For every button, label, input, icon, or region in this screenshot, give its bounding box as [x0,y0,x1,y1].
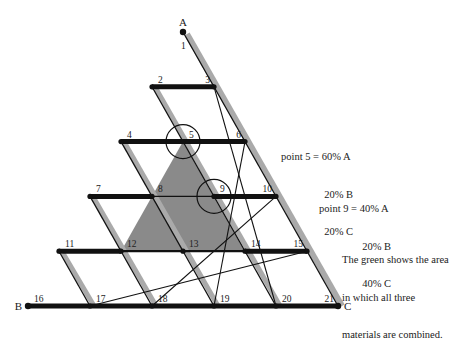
point-label: 7 [96,184,101,194]
point-label: 5 [189,130,194,140]
grid-node [149,84,154,89]
point-label: 19 [220,294,230,304]
grid-node [335,303,341,309]
point-label: 11 [65,239,74,249]
grid-node [273,303,278,308]
grid-node [118,139,123,144]
point-label: 9 [220,184,225,194]
point-label: 4 [127,130,132,140]
grid-node [149,194,154,199]
grid-node [25,303,31,309]
caption: The green shows the area in which all th… [342,229,449,342]
caption-line-1: The green shows the area [342,254,449,267]
grid-node [211,84,216,89]
corner-label-a: A [179,16,187,28]
grid-line-desc [59,251,90,306]
point-label: 6 [236,130,241,140]
point-label: 12 [127,239,137,249]
point5-line-a: point 5 = 60% A [281,151,353,164]
grid-node [180,139,185,144]
point-label: 1 [181,41,186,51]
point-label: 13 [189,239,199,249]
caption-line-3: materials are combined. [342,329,449,342]
point-label: 16 [34,294,44,304]
point-label: 10 [263,184,273,194]
grid-node [273,194,278,199]
corner-label-b: B [15,300,22,312]
point-label: 18 [158,294,168,304]
grid-node [242,139,247,144]
grid-node [242,249,247,254]
grid-node [118,249,123,254]
shadow-line [63,253,94,306]
point-label: 3 [205,75,210,85]
point-label: 2 [158,75,163,85]
point-label: 8 [158,184,163,194]
grid-node [87,194,92,199]
grid-node [56,249,61,254]
point-label: 14 [251,239,261,249]
grid-node [211,303,216,308]
grid-node [180,29,186,35]
point-label: 17 [96,294,106,304]
grid-node [180,249,185,254]
grid-node [211,194,216,199]
point9-line-a: point 9 = 40% A [319,203,391,216]
point-label: 20 [282,294,292,304]
grid-node [149,303,154,308]
caption-line-2: in which all three [342,292,449,305]
grid-node [87,303,92,308]
